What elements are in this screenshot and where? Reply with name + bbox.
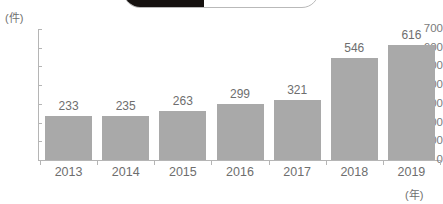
- bar-value-label: 235: [96, 100, 156, 112]
- y-tick: [38, 85, 42, 86]
- y-tick: [38, 123, 42, 124]
- bar-value-label: 299: [210, 88, 270, 100]
- x-tick-label: 2013: [39, 166, 99, 179]
- y-tick: [38, 48, 42, 49]
- bar-value-label: 263: [153, 95, 213, 107]
- bar: [159, 111, 206, 160]
- x-tick: [40, 160, 41, 165]
- y-tick: [38, 29, 42, 30]
- y-axis-title: (件): [5, 9, 23, 25]
- bar: [102, 116, 149, 160]
- bar: [45, 116, 92, 160]
- x-tick: [440, 160, 441, 165]
- x-tick: [269, 160, 270, 165]
- bar-value-label: 233: [39, 100, 99, 112]
- chart-page: (件) (年) 7006005004003002001000 233235263…: [0, 0, 443, 204]
- bar: [274, 100, 321, 160]
- x-axis-line: [38, 160, 440, 161]
- x-tick: [326, 160, 327, 165]
- x-axis-title: (年): [405, 186, 423, 202]
- bar-value-label: 616: [381, 29, 441, 41]
- bar: [331, 58, 378, 160]
- bar: [388, 45, 435, 160]
- x-tick-label: 2017: [267, 166, 327, 179]
- x-tick-label: 2015: [153, 166, 213, 179]
- x-tick: [154, 160, 155, 165]
- x-tick-label: 2018: [324, 166, 384, 179]
- x-tick: [211, 160, 212, 165]
- x-tick: [97, 160, 98, 165]
- bar-chart: (件) (年) 7006005004003002001000 233235263…: [0, 0, 443, 204]
- bar-value-label: 546: [324, 42, 384, 54]
- x-tick-label: 2014: [96, 166, 156, 179]
- x-tick-label: 2019: [381, 166, 441, 179]
- bar-value-label: 321: [267, 84, 327, 96]
- y-tick: [38, 141, 42, 142]
- x-tick-label: 2016: [210, 166, 270, 179]
- bar: [217, 104, 264, 160]
- x-tick: [383, 160, 384, 165]
- y-tick: [38, 66, 42, 67]
